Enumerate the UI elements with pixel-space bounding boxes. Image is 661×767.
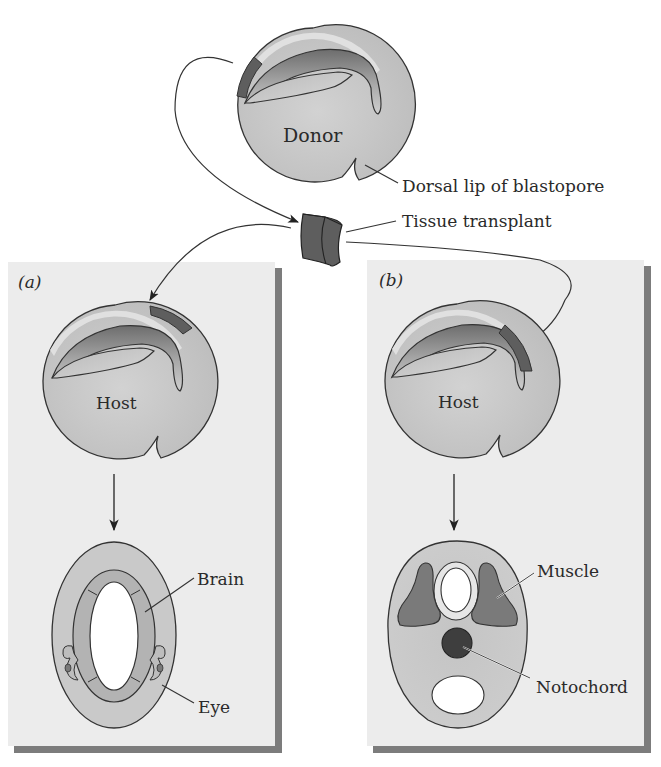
organizer-transplant-diagram: Donor Dorsal lip of blastopore Tissue tr… — [0, 0, 661, 767]
donor-embryo: Donor — [237, 25, 415, 182]
host-a-label: Host — [96, 393, 137, 413]
notochord — [442, 628, 472, 658]
eye-label: Eye — [198, 697, 230, 717]
panel-a-tag: (a) — [18, 272, 41, 292]
secondary-head-section — [52, 542, 176, 728]
host-embryo-a: Host — [43, 302, 218, 459]
donor-label: Donor — [283, 124, 343, 146]
host-embryo-b: Host — [385, 301, 560, 458]
tissue-transplant-block — [301, 214, 342, 266]
secondary-trunk-section — [388, 541, 527, 728]
gut-cavity — [432, 676, 484, 714]
host-b-label: Host — [438, 392, 479, 412]
dorsal-lip-label: Dorsal lip of blastopore — [402, 176, 604, 196]
panel-b-tag: (b) — [379, 270, 403, 290]
notochord-label: Notochord — [536, 677, 628, 697]
brain-label: Brain — [197, 569, 244, 589]
tissue-transplant-label: Tissue transplant — [402, 211, 552, 231]
transplant-callout-line — [346, 221, 396, 232]
neural-canal — [90, 582, 138, 690]
muscle-label: Muscle — [537, 561, 599, 581]
